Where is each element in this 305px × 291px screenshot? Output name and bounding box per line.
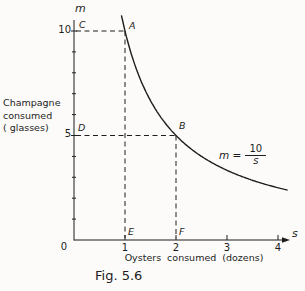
y-axis-symbol: m bbox=[75, 3, 86, 14]
y-axis-title: Champagne consumed ( glasses) bbox=[3, 97, 60, 135]
point-label-b: B bbox=[179, 121, 186, 131]
y-axis-title-line1: Champagne bbox=[3, 97, 60, 110]
point-label-d: D bbox=[78, 123, 85, 133]
point-label-a: A bbox=[129, 21, 136, 31]
equation-fraction: 10 s bbox=[245, 144, 266, 166]
y-axis-title-line3: ( glasses) bbox=[3, 122, 60, 135]
x-tick-label-4: 4 bbox=[271, 243, 285, 253]
point-label-e: E bbox=[128, 227, 134, 237]
point-label-f: F bbox=[179, 227, 184, 237]
x-axis-title: Oysters consumed (dozens) bbox=[118, 252, 270, 263]
x-axis-symbol: s bbox=[292, 228, 298, 239]
equation-denominator: s bbox=[245, 155, 266, 167]
y-tick-label-10: 10 bbox=[49, 25, 71, 35]
origin-label: 0 bbox=[59, 242, 69, 252]
figure-caption: Fig. 5.6 bbox=[95, 268, 142, 283]
point-label-c: C bbox=[79, 20, 86, 30]
figure-5-6: m s 10 5 0 1 2 3 4 A B C D E F m = 10 s … bbox=[0, 0, 305, 291]
equation-lhs: m = bbox=[219, 149, 241, 161]
curve-equation: m = 10 s bbox=[219, 144, 266, 166]
y-axis-title-line2: consumed bbox=[3, 110, 60, 123]
equation-numerator: 10 bbox=[245, 144, 266, 155]
